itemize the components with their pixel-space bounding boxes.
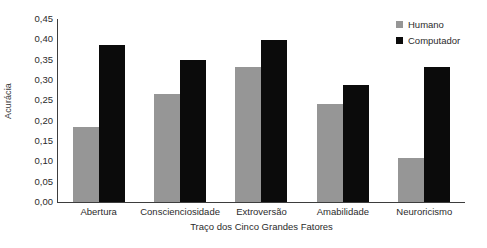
bar-computador-conscienciosidade <box>180 60 206 202</box>
x-axis-title: Traço dos Cinco Grandes Fatores <box>58 221 465 232</box>
y-axis-tick-label: 0,05 <box>15 177 53 187</box>
bar-computador-neuroricismo <box>424 67 450 202</box>
y-axis-tick-label: 0,25 <box>15 95 53 105</box>
bar-computador-abertura <box>99 45 125 202</box>
bar-group <box>58 19 139 202</box>
x-axis-tick-label: Abertura <box>80 206 116 218</box>
x-axis-tick-label: Conscienciosidade <box>140 206 220 218</box>
bar-group <box>221 19 302 202</box>
y-axis-title: Acurácia <box>0 0 16 202</box>
y-axis-tick-label: 0,35 <box>15 55 53 65</box>
y-axis-tick-labels: 0,000,050,100,150,200,250,300,350,400,45 <box>16 0 56 248</box>
x-axis-tick-label: Extroversão <box>236 206 287 218</box>
x-axis-line <box>57 202 465 203</box>
x-axis-tick-label: Amabilidade <box>317 206 369 218</box>
bar-group <box>302 19 383 202</box>
legend-label-humano: Humano <box>408 20 444 30</box>
y-axis-tick-label: 0,10 <box>15 156 53 166</box>
legend-swatch-computer-icon <box>396 37 403 44</box>
bar-humano-extroversão <box>235 67 261 202</box>
bar-computador-amabilidade <box>343 85 369 202</box>
legend-item-computador: Computador <box>396 34 460 47</box>
bar-humano-conscienciosidade <box>154 94 180 202</box>
x-axis-tick-labels: AberturaConscienciosidadeExtroversãoAmab… <box>58 206 465 222</box>
chart-legend: Humano Computador <box>396 18 460 50</box>
y-axis-tick-label: 0,20 <box>15 116 53 126</box>
y-axis-tick-label: 0,15 <box>15 136 53 146</box>
y-axis-tick-label: 0,45 <box>15 14 53 24</box>
bar-humano-neuroricismo <box>398 158 424 202</box>
bar-group <box>139 19 220 202</box>
x-axis-tick-label: Neuroricismo <box>396 206 452 218</box>
y-axis-tick-label: 0,30 <box>15 75 53 85</box>
y-axis-tick-label: 0,40 <box>15 34 53 44</box>
bar-computador-extroversão <box>261 40 287 202</box>
bar-chart: Acurácia 0,000,050,100,150,200,250,300,3… <box>0 0 487 248</box>
bar-humano-amabilidade <box>317 104 343 202</box>
legend-label-computador: Computador <box>408 36 460 46</box>
bar-humano-abertura <box>73 127 99 202</box>
legend-item-humano: Humano <box>396 18 460 31</box>
legend-swatch-human-icon <box>396 21 403 28</box>
y-axis-tick-label: 0,00 <box>15 197 53 207</box>
y-axis-title-text: Acurácia <box>3 83 13 119</box>
